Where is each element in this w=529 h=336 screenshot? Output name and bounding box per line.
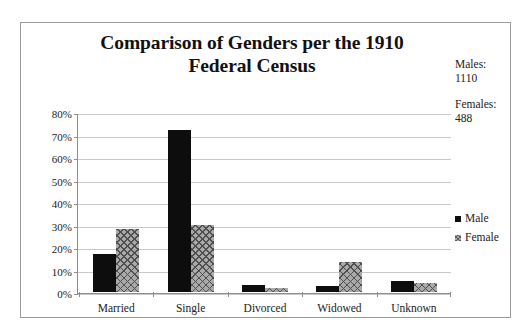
census-totals: Males: 1110 Females: 488 (455, 57, 515, 137)
males-total: Males: 1110 (455, 57, 515, 85)
y-axis-tick-label: 30% (52, 221, 72, 233)
y-axis-tick-label: 50% (52, 176, 72, 188)
x-axis-tick-mark (450, 292, 451, 297)
x-axis-tick-mark (153, 292, 154, 297)
x-axis-category-label: Unknown (377, 302, 451, 314)
bar-group: Married (79, 114, 153, 292)
bar-group: Unknown (377, 114, 451, 292)
y-axis-tick-mark (74, 159, 78, 160)
chart-title-line-2: Federal Census (189, 55, 316, 76)
legend-item-male: Male (455, 209, 499, 228)
chart-legend: Male Female (455, 209, 499, 247)
bar-married-male[interactable] (93, 254, 116, 292)
bar-group: Single (153, 114, 227, 292)
y-axis-tick-mark (74, 114, 78, 115)
gridline (78, 294, 451, 295)
x-axis-tick-mark (302, 292, 303, 297)
y-axis-tick-mark (74, 249, 78, 250)
females-value: 488 (455, 111, 515, 125)
males-value: 1110 (455, 71, 515, 85)
chart-frame: Comparison of Genders per the 1910 Feder… (20, 22, 511, 318)
bar-divorced-female[interactable] (265, 288, 288, 293)
x-axis-category-label: Married (79, 302, 153, 314)
y-axis-tick-label: 20% (52, 243, 72, 255)
x-axis-category-label: Widowed (302, 302, 376, 314)
x-axis-tick-mark (228, 292, 229, 297)
plot-area: 80%70%60%50%40%30%20%10%0% MarriedSingle… (77, 114, 451, 294)
bar-unknown-female[interactable] (414, 283, 437, 292)
legend-item-female: Female (455, 228, 499, 247)
y-axis-tick-label: 70% (52, 131, 72, 143)
y-axis-tick-mark (74, 272, 78, 273)
y-axis-tick-label: 80% (52, 108, 72, 120)
bar-groups: MarriedSingleDivorcedWidowedUnknown (79, 114, 451, 292)
bar-widowed-female[interactable] (339, 262, 362, 292)
bar-single-female[interactable] (191, 225, 214, 293)
y-axis-tick-label: 0% (57, 288, 72, 300)
y-axis-tick-label: 40% (52, 198, 72, 210)
bar-unknown-male[interactable] (391, 281, 414, 292)
y-axis-tick-label: 10% (52, 266, 72, 278)
y-axis-tick-mark (74, 182, 78, 183)
bar-group: Widowed (302, 114, 376, 292)
y-axis-tick-mark (74, 294, 78, 295)
females-label: Females: (455, 97, 515, 111)
y-axis-tick-label: 60% (52, 153, 72, 165)
crosshatch-square-icon (455, 235, 461, 241)
chart-title: Comparison of Genders per the 1910 Feder… (57, 31, 447, 77)
y-axis-tick-mark (74, 137, 78, 138)
legend-label-female: Female (465, 228, 499, 247)
solid-square-icon (455, 216, 461, 222)
bar-group: Divorced (228, 114, 302, 292)
x-axis-category-label: Single (153, 302, 227, 314)
bar-widowed-male[interactable] (316, 286, 339, 292)
x-axis-tick-mark (377, 292, 378, 297)
bar-married-female[interactable] (116, 229, 139, 292)
x-axis-category-label: Divorced (228, 302, 302, 314)
chart-title-line-1: Comparison of Genders per the 1910 (100, 32, 403, 53)
legend-label-male: Male (465, 209, 489, 228)
males-label: Males: (455, 57, 515, 71)
females-total: Females: 488 (455, 97, 515, 125)
bar-divorced-male[interactable] (242, 285, 265, 292)
y-axis-tick-mark (74, 227, 78, 228)
bar-single-male[interactable] (168, 130, 191, 292)
plot-wrapper: 80%70%60%50%40%30%20%10%0% MarriedSingle… (77, 114, 451, 294)
y-axis-tick-mark (74, 204, 78, 205)
x-axis-tick-mark (79, 292, 80, 297)
